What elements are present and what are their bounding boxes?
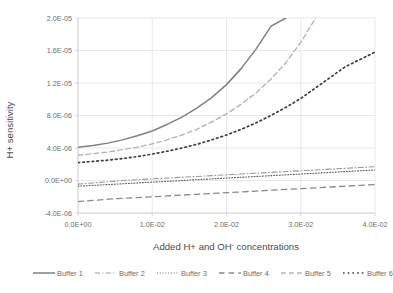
y-tick-label: 4.0E-06 bbox=[47, 144, 72, 153]
y-axis-tick-labels: -4.0E-060.0E+004.0E-068.0E-061.2E-051.6E… bbox=[44, 14, 72, 218]
line-chart-svg: -4.0E-060.0E+004.0E-068.0E-061.2E-051.6E… bbox=[0, 0, 393, 293]
x-tick-label: 0.0E+00 bbox=[65, 220, 92, 229]
legend: Buffer 1Buffer 2Buffer 3Buffer 4Buffer 5… bbox=[33, 269, 393, 278]
series-line-1 bbox=[78, 18, 286, 147]
y-axis-title: H+ sensitivity bbox=[4, 101, 15, 158]
x-axis-title: Added H+ and OH- concentrations bbox=[153, 241, 299, 253]
y-tick-label: -4.0E-06 bbox=[44, 209, 72, 218]
x-tick-label: 3.0E-02 bbox=[288, 220, 313, 229]
axis-lines-group bbox=[75, 18, 375, 216]
legend-label-4[interactable]: Buffer 4 bbox=[243, 269, 269, 278]
x-tick-label: 2.0E-02 bbox=[214, 220, 239, 229]
legend-label-1[interactable]: Buffer 1 bbox=[57, 269, 83, 278]
legend-label-2[interactable]: Buffer 2 bbox=[119, 269, 145, 278]
y-tick-label: 2.0E-05 bbox=[47, 14, 72, 23]
chart-container: -4.0E-060.0E+004.0E-068.0E-061.2E-051.6E… bbox=[0, 0, 393, 293]
x-axis-tick-labels: 0.0E+001.0E-022.0E-023.0E-024.0E-02 bbox=[65, 220, 388, 229]
y-tick-label: 1.6E-05 bbox=[47, 46, 72, 55]
y-tick-label: 8.0E-06 bbox=[47, 111, 72, 120]
legend-label-3[interactable]: Buffer 3 bbox=[181, 269, 207, 278]
x-tick-label: 1.0E-02 bbox=[140, 220, 165, 229]
x-tick-label: 4.0E-02 bbox=[362, 220, 387, 229]
series-line-5 bbox=[78, 18, 316, 155]
legend-label-5[interactable]: Buffer 5 bbox=[305, 269, 331, 278]
legend-label-6[interactable]: Buffer 6 bbox=[367, 269, 393, 278]
y-tick-label: 0.0E+00 bbox=[45, 176, 72, 185]
y-tick-label: 1.2E-05 bbox=[47, 79, 72, 88]
